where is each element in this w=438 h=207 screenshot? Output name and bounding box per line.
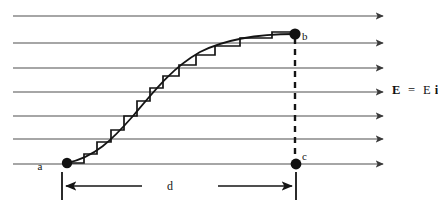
field-equals-sign: =	[408, 83, 415, 97]
point-b-label: b	[302, 30, 308, 42]
point-c-label: c	[302, 150, 307, 162]
field-vector-symbol: E	[392, 83, 401, 97]
point-c-dot	[291, 159, 302, 170]
physics-diagram-canvas: a b c d E = E i	[0, 0, 438, 207]
point-b-dot	[289, 28, 300, 39]
field-magnitude-symbol: E	[423, 83, 431, 97]
field-lines-group	[13, 16, 383, 164]
curved-path	[67, 34, 295, 163]
dimension-d-group: d	[62, 172, 296, 200]
dimension-label-d: d	[167, 179, 173, 193]
field-equation-label: E = E i	[392, 83, 438, 97]
figure-container: a b c d E = E i	[0, 0, 438, 207]
point-a-label: a	[38, 160, 43, 172]
staircase-path	[67, 32, 295, 163]
point-a-dot	[62, 158, 72, 168]
